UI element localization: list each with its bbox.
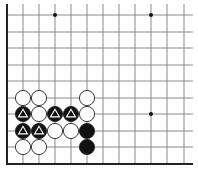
black-stone <box>63 106 78 121</box>
black-stone <box>31 123 46 138</box>
white-stone <box>31 106 46 121</box>
star-point <box>149 112 153 116</box>
star-point <box>53 13 57 17</box>
go-board <box>0 0 198 172</box>
white-stone <box>31 139 46 154</box>
star-point <box>149 13 153 17</box>
black-stone <box>47 106 62 121</box>
white-stone <box>15 90 30 105</box>
white-stone <box>63 123 78 138</box>
black-stone <box>15 123 30 138</box>
black-stone <box>79 139 94 154</box>
white-stone <box>15 139 30 154</box>
black-stone <box>15 106 30 121</box>
white-stone <box>47 123 62 138</box>
white-stone <box>31 90 46 105</box>
white-stone <box>79 90 94 105</box>
black-stone <box>79 123 94 138</box>
white-stone <box>79 106 94 121</box>
grid-lines <box>7 4 193 164</box>
